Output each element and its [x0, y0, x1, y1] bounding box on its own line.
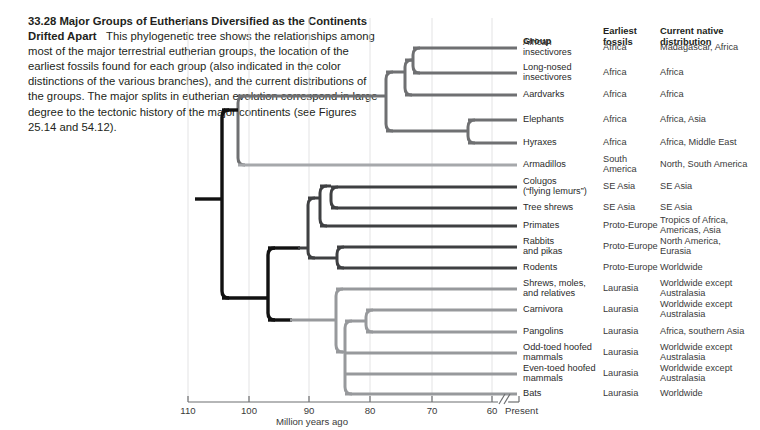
clade-afroinsectiphilia — [405, 60, 412, 95]
current-distribution-row-13: Africa, southern Asia — [660, 326, 744, 336]
current-distribution-row-0: Madagascar, Africa — [660, 42, 738, 52]
group-name-row-11-line1: Shrews, moles, — [523, 278, 586, 288]
current-distribution-row-15-line2: Australasia — [660, 373, 732, 383]
current-distribution-row-2-line1: Africa — [660, 89, 684, 99]
current-distribution-row-9-line2: Eurasia — [660, 246, 721, 256]
group-name-row-3: Elephants — [523, 114, 564, 124]
earliest-fossils-row-7: SE Asia — [603, 202, 635, 212]
current-distribution-row-15-line1: Worldwide except — [660, 363, 732, 373]
earliest-fossils-row-12-line1: Laurasia — [603, 304, 638, 314]
group-name-row-1-line2: insectivores — [523, 72, 572, 82]
earliest-fossils-row-6: SE Asia — [603, 181, 635, 191]
group-name-row-1-line1: Long-nosed — [523, 62, 572, 72]
current-distribution-row-12: Worldwide exceptAustralasia — [660, 299, 732, 320]
group-name-row-12-line1: Carnivora — [523, 304, 563, 314]
group-name-row-9-line1: Rabbits — [523, 236, 562, 246]
current-distribution-row-11: Worldwide exceptAustralasia — [660, 278, 732, 299]
current-distribution-row-10-line1: Worldwide — [660, 262, 703, 272]
clade-boreoeutheria — [268, 248, 275, 320]
earliest-fossils-row-12: Laurasia — [603, 304, 638, 314]
earliest-fossils-row-16: Laurasia — [603, 388, 638, 398]
current-distribution-row-11-line1: Worldwide except — [660, 278, 732, 288]
earliest-fossils-row-2-line1: Africa — [603, 89, 627, 99]
current-distribution-row-2: Africa — [660, 89, 684, 99]
figure-root: 33.28 Major Groups of Eutherians Diversi… — [0, 0, 760, 430]
group-name-row-14-line1: Odd-toed hoofed — [523, 342, 592, 352]
earliest-fossils-row-2: Africa — [603, 89, 627, 99]
column-header-earliest-fossils-line1: Earliest — [603, 26, 637, 37]
group-name-row-15: Even-toed hoofedmammals — [523, 363, 596, 384]
current-distribution-row-16-line1: Worldwide — [660, 388, 703, 398]
current-distribution-row-6: SE Asia — [660, 181, 692, 191]
column-header-current-distribution-line1: Current native — [660, 26, 724, 37]
earliest-fossils-row-9-line1: Proto-Europe — [603, 241, 658, 251]
current-distribution-row-14-line1: Worldwide except — [660, 342, 732, 352]
earliest-fossils-row-5-line2: America — [603, 164, 637, 174]
clade-scrotifera — [345, 321, 352, 394]
earliest-fossils-row-14-line1: Laurasia — [603, 347, 638, 357]
earliest-fossils-row-3: Africa — [603, 114, 627, 124]
group-name-row-16: Bats — [523, 388, 541, 398]
group-name-row-9: Rabbitsand pikas — [523, 236, 562, 257]
group-name-row-6-line1: Colugos — [523, 176, 587, 186]
group-name-row-10: Rodents — [523, 262, 557, 272]
earliest-fossils-row-10: Proto-Europe — [603, 262, 658, 272]
earliest-fossils-row-5: SouthAmerica — [603, 154, 637, 175]
earliest-fossils-row-4: Africa — [603, 137, 627, 147]
group-name-row-2: Aardvarks — [523, 89, 564, 99]
current-distribution-row-4-line1: Africa, Middle East — [660, 137, 737, 147]
group-name-row-8: Primates — [523, 220, 559, 230]
current-distribution-row-1: Africa — [660, 67, 684, 77]
earliest-fossils-row-1-line1: Africa — [603, 67, 627, 77]
earliest-fossils-row-8-line1: Proto-Europe — [603, 220, 658, 230]
group-name-row-0: Africaninsectivores — [523, 37, 572, 58]
group-name-row-3-line1: Elephants — [523, 114, 564, 124]
axis-title: Million years ago — [242, 416, 382, 427]
group-name-row-5: Armadillos — [523, 159, 566, 169]
current-distribution-row-13-line1: Africa, southern Asia — [660, 326, 744, 336]
earliest-fossils-row-10-line1: Proto-Europe — [603, 262, 658, 272]
earliest-fossils-row-4-line1: Africa — [603, 137, 627, 147]
group-name-row-5-line1: Armadillos — [523, 159, 566, 169]
group-name-row-2-line1: Aardvarks — [523, 89, 564, 99]
current-distribution-row-3: Africa, Asia — [660, 114, 706, 124]
earliest-fossils-row-5-line1: South — [603, 154, 637, 164]
group-name-row-7: Tree shrews — [523, 202, 573, 212]
current-distribution-row-4: Africa, Middle East — [660, 137, 737, 147]
group-name-row-10-line1: Rodents — [523, 262, 557, 272]
current-distribution-row-16: Worldwide — [660, 388, 703, 398]
group-name-row-13-line1: Pangolins — [523, 326, 563, 336]
group-name-row-7-line1: Tree shrews — [523, 202, 573, 212]
group-name-row-16-line1: Bats — [523, 388, 541, 398]
clade-eutheria-root — [222, 110, 229, 298]
current-distribution-row-12-line2: Australasia — [660, 309, 732, 319]
group-name-row-4: Hyraxes — [523, 137, 557, 147]
earliest-fossils-row-1: Africa — [603, 67, 627, 77]
current-distribution-row-5: North, South America — [660, 159, 747, 169]
group-name-row-14: Odd-toed hoofedmammals — [523, 342, 592, 363]
current-distribution-row-7: SE Asia — [660, 202, 692, 212]
axis-tick-label-70: 70 — [420, 405, 444, 416]
current-distribution-row-3-line1: Africa, Asia — [660, 114, 706, 124]
clade-paenungulata — [468, 120, 475, 143]
clade-euarchontoglires — [308, 198, 315, 258]
clade-colugos-treeshrews — [331, 187, 338, 208]
earliest-fossils-row-0-line1: Africa — [603, 42, 627, 52]
current-distribution-row-14-line2: Australasia — [660, 352, 732, 362]
group-name-row-12: Carnivora — [523, 304, 563, 314]
group-name-row-11-line2: and relatives — [523, 288, 586, 298]
group-name-row-14-line2: mammals — [523, 352, 592, 362]
current-distribution-row-9: North America,Eurasia — [660, 236, 721, 257]
earliest-fossils-row-14: Laurasia — [603, 347, 638, 357]
group-name-row-15-line1: Even-toed hoofed — [523, 363, 596, 373]
clade-glires — [337, 247, 344, 268]
group-name-row-4-line1: Hyraxes — [523, 137, 557, 147]
axis-tick-label-80: 80 — [358, 405, 382, 416]
earliest-fossils-row-13-line1: Laurasia — [603, 326, 638, 336]
earliest-fossils-row-3-line1: Africa — [603, 114, 627, 124]
earliest-fossils-row-11: Laurasia — [603, 283, 638, 293]
current-distribution-row-10: Worldwide — [660, 262, 703, 272]
clade-african-longnosed — [413, 48, 420, 73]
earliest-fossils-row-15-line1: Laurasia — [603, 368, 638, 378]
group-name-row-0-line1: African — [523, 37, 572, 47]
